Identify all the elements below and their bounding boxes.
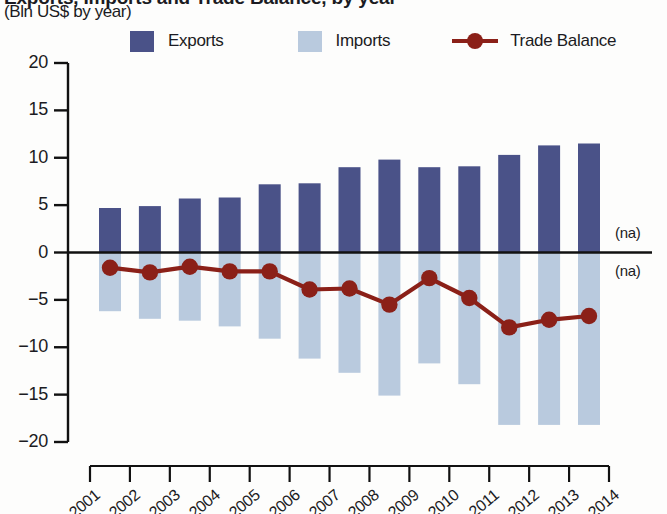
trade-balance-point <box>262 263 278 279</box>
y-axis-tick-label: −20 <box>0 431 48 452</box>
bar-imports <box>378 253 400 396</box>
na-label-lower: (na) <box>615 262 640 279</box>
trade-balance-point <box>461 290 477 306</box>
bar-imports <box>458 253 480 385</box>
y-axis-tick-label: −10 <box>0 336 48 357</box>
na-label-upper: (na) <box>615 224 640 241</box>
y-axis-tick-label: 10 <box>0 147 48 168</box>
trade-balance-point <box>222 263 238 279</box>
y-axis-tick-label: 15 <box>0 99 48 120</box>
bar-exports <box>219 198 241 253</box>
bar-exports <box>99 208 121 253</box>
bar-imports <box>578 253 600 425</box>
trade-balance-point <box>341 280 357 296</box>
y-axis-tick-label: 5 <box>0 194 48 215</box>
bar-exports <box>578 144 600 253</box>
bar-exports <box>498 155 520 253</box>
bar-imports <box>418 253 440 364</box>
plot-canvas <box>0 0 667 514</box>
y-axis-tick-label: −15 <box>0 384 48 405</box>
bar-exports <box>458 166 480 252</box>
trade-balance-point <box>182 259 198 275</box>
bar-exports <box>339 167 361 252</box>
y-axis-tick-label: 0 <box>0 242 48 263</box>
trade-balance-point <box>102 260 118 276</box>
bar-exports <box>378 160 400 253</box>
bar-exports <box>538 145 560 252</box>
trade-balance-point <box>142 264 158 280</box>
trade-balance-point <box>421 270 437 286</box>
bar-exports <box>139 206 161 252</box>
trade-balance-point <box>381 296 397 312</box>
bar-imports <box>498 253 520 425</box>
bar-exports <box>259 184 281 252</box>
bar-exports <box>418 167 440 252</box>
trade-balance-point <box>301 281 317 297</box>
trade-balance-point <box>581 308 597 324</box>
bar-exports <box>299 183 321 252</box>
bar-imports <box>139 253 161 319</box>
bar-imports <box>299 253 321 359</box>
trade-balance-point <box>541 312 557 328</box>
bar-exports <box>179 199 201 253</box>
bar-imports <box>538 253 560 425</box>
chart-figure: Exports, Imports and Trade Balance, by y… <box>0 0 667 514</box>
y-axis-tick-label: 20 <box>0 52 48 73</box>
bar-imports <box>339 253 361 373</box>
trade-balance-point <box>501 319 517 335</box>
y-axis-tick-label: −5 <box>0 289 48 310</box>
